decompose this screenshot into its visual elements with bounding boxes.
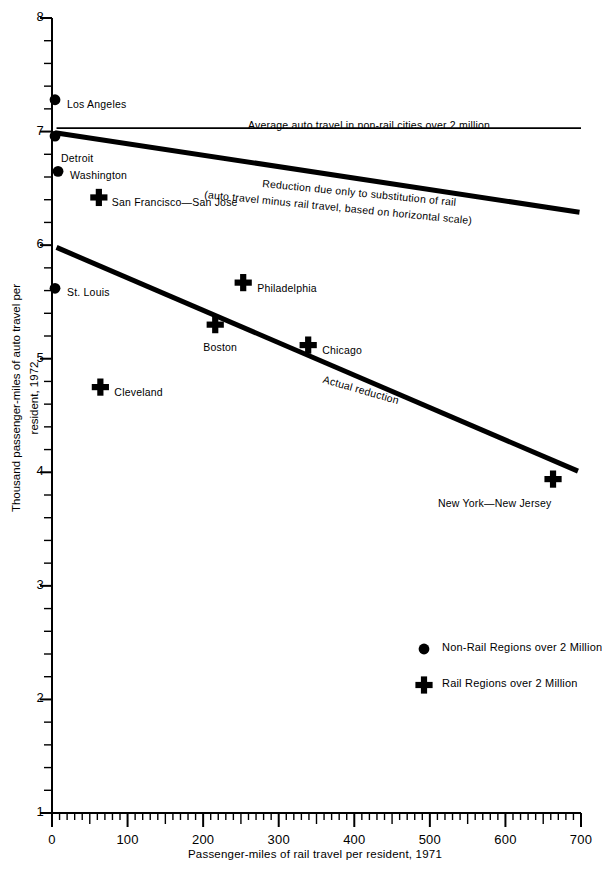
y-tick-label-2: 2 [28,690,44,705]
x-tick-label-600: 600 [485,832,525,847]
data-point-label-los-angeles: Los Angeles [67,98,126,110]
data-point-label-san-francisco-san-jose: San Francisco—San Jose [112,196,238,208]
data-point-los-angeles [50,94,61,105]
y-tick-label-7: 7 [28,123,44,138]
data-point-label-detroit: Detroit [61,152,93,164]
data-point-philadelphia [235,274,252,291]
data-point-san-francisco-san-jose [90,189,107,206]
legend-label-rail: Rail Regions over 2 Million [442,677,578,689]
x-tick-label-500: 500 [410,832,450,847]
y-tick-label-6: 6 [28,236,44,251]
trend-line-actual-reduction [57,247,578,471]
data-point-label-boston: Boston [203,341,237,353]
x-axis-title: Passenger-miles of rail travel per resid… [188,848,442,860]
x-tick-label-200: 200 [183,832,223,847]
data-point-cleveland [92,379,109,396]
x-tick-label-700: 700 [561,832,601,847]
data-point-label-new-york-new-jersey: New York—New Jersey [438,497,552,509]
axes [52,18,581,813]
x-tick-label-100: 100 [108,832,148,847]
y-tick-label-8: 8 [28,9,44,24]
data-point-new-york-new-jersey [544,471,561,488]
y-tick-label-3: 3 [28,577,44,592]
y-tick-label-4: 4 [28,463,44,478]
annotation-average-auto-travel: Average auto travel in non-rail cities o… [248,119,490,131]
data-point-label-st-louis: St. Louis [67,286,110,298]
legend-label-non-rail: Non-Rail Regions over 2 Million [442,641,602,653]
data-point-label-cleveland: Cleveland [114,386,163,398]
data-point-detroit [50,131,61,142]
y-tick-label-5: 5 [28,350,44,365]
chart-figure: Thousand passenger-miles of auto travel … [0,0,602,872]
legend-marker-non-rail [419,644,430,655]
y-axis-title-wrapper: Thousand passenger-miles of auto travel … [6,268,42,528]
legend-marker-rail [415,676,432,693]
data-point-label-washington: Washington [70,169,127,181]
data-point-washington [53,166,64,177]
data-point-label-chicago: Chicago [322,344,362,356]
x-tick-label-0: 0 [32,832,72,847]
data-point-st-louis [50,283,61,294]
x-tick-label-300: 300 [259,832,299,847]
y-tick-label-1: 1 [28,804,44,819]
legend-markers [415,644,432,694]
x-tick-label-400: 400 [334,832,374,847]
x-axis-ticks [52,813,581,827]
trend-lines [55,128,581,471]
data-point-label-philadelphia: Philadelphia [257,282,317,294]
